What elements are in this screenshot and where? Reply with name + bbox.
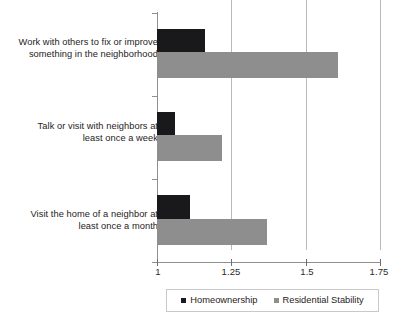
category-label-2-line1: Talk or visit with neighbors at — [6, 121, 158, 133]
x-tick-label-3: 1.5 — [300, 266, 314, 278]
legend-item-residential-stability[interactable]: Residential Stability — [274, 295, 364, 306]
tick-mark-1.25 — [231, 259, 232, 266]
axis-baseline — [157, 262, 381, 263]
legend-item-homeownership[interactable]: Homeownership — [181, 295, 257, 306]
category-label-3-line1: Visit the home of a neighbor at — [6, 209, 158, 221]
bar-chart-figure: 1 1.25 1.5 1.75 Work with others to fix … — [0, 0, 394, 319]
bar-homeownership-2 — [157, 112, 175, 135]
category-tick-2 — [152, 96, 158, 97]
gridline-1.75 — [380, 0, 381, 250]
category-label-1-line1: Work with others to fix or improve — [6, 37, 158, 49]
bar-homeownership-1 — [157, 29, 205, 52]
bar-residential-stability-2 — [157, 135, 222, 161]
bar-residential-stability-3 — [157, 219, 267, 245]
category-tick-1 — [152, 13, 158, 14]
legend-swatch-icon-homeownership — [181, 298, 186, 303]
legend-swatch-icon-residential-stability — [274, 298, 279, 303]
x-tick-label-1: 1 — [155, 266, 160, 278]
tick-mark-1.75 — [380, 259, 381, 266]
tick-mark-1.5 — [306, 259, 307, 266]
gridline-1.5 — [306, 0, 307, 250]
category-label-1: Work with others to fix or improve somet… — [6, 37, 158, 60]
tick-mark-1 — [157, 259, 158, 266]
x-tick-label-4: 1.75 — [370, 266, 389, 278]
category-label-2: Talk or visit with neighbors at least on… — [6, 121, 158, 144]
category-label-1-line2: something in the neighborhood — [6, 49, 158, 61]
category-label-2-line2: least once a week — [6, 133, 158, 145]
gridline-1.25 — [231, 0, 232, 250]
bar-residential-stability-1 — [157, 52, 338, 78]
category-tick-3 — [152, 179, 158, 180]
category-label-3-line2: least once a month — [6, 221, 158, 233]
legend-label-residential-stability: Residential Stability — [283, 295, 364, 306]
chart-legend: Homeownership Residential Stability — [166, 289, 379, 312]
category-label-3: Visit the home of a neighbor at least on… — [6, 209, 158, 232]
x-tick-label-2: 1.25 — [222, 266, 241, 278]
bar-homeownership-3 — [157, 195, 190, 219]
legend-label-homeownership: Homeownership — [190, 295, 257, 306]
